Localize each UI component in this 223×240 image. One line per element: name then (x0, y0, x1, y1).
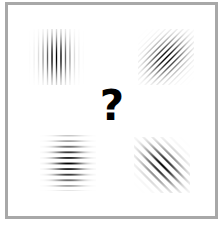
gabor-patch-horizontal (40, 135, 96, 191)
gabor-patch-diagonal-falling (134, 137, 190, 193)
question-mark: ? (92, 82, 132, 130)
gabor-patch-vertical (28, 29, 84, 85)
gabor-patch-diagonal-rising (138, 29, 194, 85)
